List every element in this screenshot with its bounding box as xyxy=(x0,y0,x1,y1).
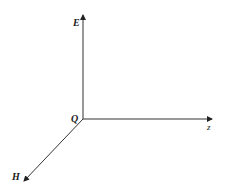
label-h: H xyxy=(11,171,21,182)
axes-diagram: E z H Q xyxy=(0,0,226,192)
label-origin-q: Q xyxy=(71,113,78,124)
label-z: z xyxy=(206,122,211,132)
h-axis xyxy=(24,119,83,181)
label-e: E xyxy=(72,17,80,28)
